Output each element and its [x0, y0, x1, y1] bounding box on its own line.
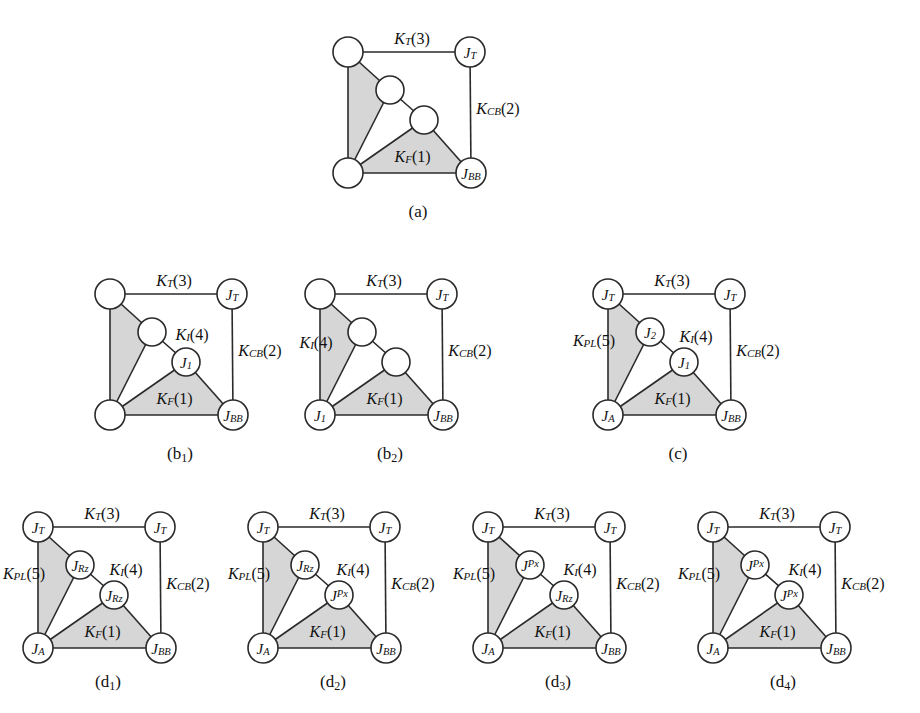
node-top-right[interactable]: JT [715, 279, 745, 309]
node-mid-lower[interactable] [382, 348, 410, 376]
node-bottom-left-circle [333, 158, 363, 188]
edge-label-k-t: KT(3) [365, 272, 401, 290]
caption-b2-paren: ) [397, 444, 403, 463]
caption-d2-paren: ) [340, 672, 346, 691]
edge-label-k-cb: KCB(2) [447, 341, 491, 359]
edge-right [835, 527, 836, 648]
node-mid-upper[interactable]: JPx [741, 551, 769, 579]
node-mid-lower[interactable]: J1 [670, 348, 698, 376]
edge-label-k-t: KT(3) [155, 272, 191, 290]
node-mid-upper[interactable]: JRz [291, 551, 319, 579]
node-top-right[interactable]: JT [427, 279, 457, 309]
node-bottom-left[interactable]: JA [248, 633, 278, 663]
caption-b1-text: (b [167, 444, 181, 463]
edge-label-k-cb: KCB(2) [390, 574, 434, 592]
diagram-d3-canvas: JTJTJPxJRzJAJBBKT(3)KCB(2)KF(1)KI(4)KPL(… [458, 505, 658, 680]
edge-label-k-t: KT(3) [653, 272, 689, 290]
edge-right [442, 294, 443, 415]
caption-d4: (d4) [683, 672, 883, 694]
node-top-right[interactable]: JT [820, 512, 850, 542]
diagram-c-canvas: JTJTJ2J1JAJBBKT(3)KCB(2)KF(1)KI(4)KPL(5) [578, 272, 778, 447]
node-bottom-left[interactable]: JA [23, 633, 53, 663]
edge-label-k-i: KI(4) [175, 326, 209, 344]
node-bottom-right[interactable]: JBB [218, 400, 248, 430]
node-top-left[interactable]: JT [473, 512, 503, 542]
node-top-left[interactable]: JT [593, 279, 623, 309]
node-mid-lower[interactable]: JRz [100, 581, 128, 609]
edge-label-k-cb: KCB(2) [840, 574, 884, 592]
node-bottom-right[interactable]: JBB [428, 400, 458, 430]
node-top-left[interactable] [95, 279, 125, 309]
node-top-right[interactable]: JT [455, 37, 485, 67]
node-mid-lower[interactable]: JPx [775, 581, 803, 609]
node-bottom-right[interactable]: JBB [821, 633, 851, 663]
edge-label-k-t: KT(3) [83, 505, 119, 523]
node-mid-upper[interactable] [348, 318, 376, 346]
node-mid-upper[interactable]: JRz [66, 551, 94, 579]
node-bottom-left[interactable]: JA [698, 633, 728, 663]
edge-right [730, 294, 731, 415]
node-bottom-left[interactable]: JA [593, 400, 623, 430]
caption-d1-paren: ) [115, 672, 121, 691]
node-top-left[interactable]: JT [248, 512, 278, 542]
node-mid-upper[interactable] [138, 318, 166, 346]
edge-right [610, 527, 611, 648]
edge-label-k-pl: KPL(5) [572, 332, 615, 350]
diagram-d4-canvas: JTJTJPxJPxJAJBBKT(3)KCB(2)KF(1)KI(4)KPL(… [683, 505, 883, 680]
caption-d2: (d2) [233, 672, 433, 694]
diagram-b1-canvas: JTJ1JBBKT(3)KCB(2)KF(1)KI(4) [80, 272, 280, 447]
caption-a-text: (a) [409, 202, 428, 221]
node-top-left[interactable]: JT [23, 512, 53, 542]
edge-label-k-pl: KPL(5) [452, 565, 495, 583]
caption-d3-paren: ) [565, 672, 571, 691]
node-mid-lower[interactable] [410, 106, 438, 134]
node-top-left[interactable]: JT [698, 512, 728, 542]
edge-label-k-cb: KCB(2) [237, 341, 281, 359]
diagram-a-canvas: JTJBBKT(3)KCB(2)KF(1) [318, 30, 518, 205]
caption-d1-text: (d [95, 672, 109, 691]
edge-label-k-i: KI(4) [563, 561, 597, 579]
node-bottom-left[interactable] [333, 158, 363, 188]
node-mid-upper[interactable]: J2 [636, 318, 664, 346]
diagram-b1: JTJ1JBBKT(3)KCB(2)KF(1)KI(4) [80, 272, 280, 447]
node-top-right[interactable]: JT [145, 512, 175, 542]
node-top-left[interactable] [305, 279, 335, 309]
node-mid-upper-circle [138, 318, 166, 346]
edge-label-k-f: KF(1) [393, 148, 430, 166]
edge-label-k-f: KF(1) [533, 623, 570, 641]
node-bottom-right[interactable]: JBB [596, 633, 626, 663]
edge-right [470, 52, 471, 173]
caption-b1: (b1) [80, 444, 280, 466]
edge-label-k-cb: KCB(2) [475, 99, 519, 117]
node-bottom-right[interactable]: JBB [146, 633, 176, 663]
edge-right [385, 527, 386, 648]
edge-label-k-pl: KPL(5) [227, 565, 270, 583]
node-mid-upper-circle [348, 318, 376, 346]
node-mid-upper[interactable]: JPx [516, 551, 544, 579]
node-bottom-right[interactable]: JBB [456, 158, 486, 188]
node-bottom-right[interactable]: JBB [371, 633, 401, 663]
caption-b2-text: (b [377, 444, 391, 463]
diagram-c: JTJTJ2J1JAJBBKT(3)KCB(2)KF(1)KI(4)KPL(5) [578, 272, 778, 447]
node-bottom-left[interactable]: JA [473, 633, 503, 663]
node-top-right[interactable]: JT [595, 512, 625, 542]
node-top-right[interactable]: JT [370, 512, 400, 542]
node-mid-lower[interactable]: J1 [172, 348, 200, 376]
node-mid-lower-circle [382, 348, 410, 376]
diagram-d2-canvas: JTJTJRzJPxJAJBBKT(3)KCB(2)KF(1)KI(4)KPL(… [233, 505, 433, 680]
edge-label-k-f: KF(1) [308, 623, 345, 641]
node-mid-lower[interactable]: JPx [325, 581, 353, 609]
edge-right [160, 527, 161, 648]
node-bottom-right[interactable]: JBB [716, 400, 746, 430]
node-top-right[interactable]: JT [217, 279, 247, 309]
node-top-left[interactable] [333, 37, 363, 67]
diagram-b2: JTJ1JBBKT(3)KCB(2)KF(1)KI(4) [290, 272, 490, 447]
edge-label-k-t: KT(3) [308, 505, 344, 523]
node-mid-upper[interactable] [376, 76, 404, 104]
node-mid-lower[interactable]: JRz [550, 581, 578, 609]
diagram-a: JTJBBKT(3)KCB(2)KF(1) [318, 30, 518, 205]
node-bottom-left[interactable]: J1 [305, 400, 335, 430]
node-bottom-left[interactable] [95, 400, 125, 430]
caption-d3: (d3) [458, 672, 658, 694]
caption-b2: (b2) [290, 444, 490, 466]
